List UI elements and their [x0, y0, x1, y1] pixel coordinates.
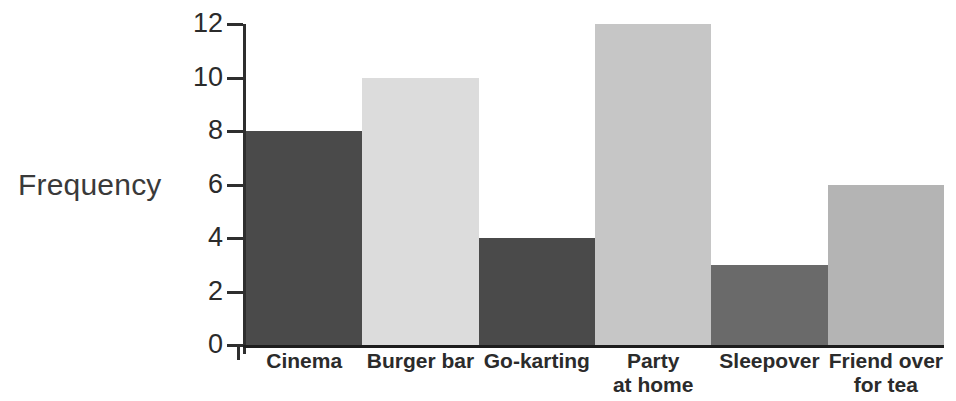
bars-layer: [246, 24, 944, 346]
x-axis-label: Burger bar: [362, 349, 478, 373]
y-axis-tick: [227, 237, 243, 240]
y-axis-title: Frequency: [18, 168, 188, 202]
bar: [828, 185, 944, 346]
bar: [479, 238, 595, 345]
bar: [711, 265, 827, 345]
bar: [362, 78, 478, 346]
y-axis-tick: [227, 184, 243, 187]
y-axis-tick-label: 12: [167, 10, 223, 37]
x-axis-label-line: Cinema: [266, 349, 342, 372]
x-axis-label-line: Burger bar: [367, 349, 474, 372]
plot-area: 024681012: [243, 24, 944, 346]
x-axis-label-line: Party: [627, 349, 680, 372]
y-axis-tick-label: 6: [167, 171, 223, 198]
y-axis-tick: [227, 23, 243, 26]
x-axis-label: Sleepover: [711, 349, 827, 373]
y-axis-tick: [227, 130, 243, 133]
y-axis-tick: [227, 344, 243, 347]
x-axis-label-line: Friend over: [829, 349, 943, 372]
bar: [246, 131, 362, 345]
x-axis-label-line: Sleepover: [719, 349, 819, 372]
x-axis-label: Go-karting: [479, 349, 595, 373]
x-axis-labels: CinemaBurger barGo-kartingPartyat homeSl…: [246, 349, 944, 401]
x-axis-label: Partyat home: [595, 349, 711, 396]
y-axis-tick-label: 8: [167, 117, 223, 144]
x-axis-label-line: for tea: [828, 373, 944, 397]
origin-tick: [237, 344, 240, 360]
bar-chart: Frequency 024681012 CinemaBurger barGo-k…: [0, 0, 956, 401]
x-axis-label-line: at home: [595, 373, 711, 397]
y-axis-tick-label: 0: [167, 331, 223, 358]
x-axis-label-line: Go-karting: [484, 349, 590, 372]
y-axis-tick-label: 10: [167, 64, 223, 91]
y-axis-tick-label: 2: [167, 278, 223, 305]
y-axis-tick-label: 4: [167, 224, 223, 251]
y-axis-tick: [227, 77, 243, 80]
y-axis-tick: [227, 291, 243, 294]
x-axis-label: Friend overfor tea: [828, 349, 944, 396]
x-axis-label: Cinema: [246, 349, 362, 373]
bar: [595, 24, 711, 345]
